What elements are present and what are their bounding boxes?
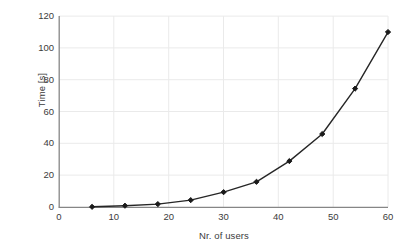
y-axis-title: Time [s] [36,50,47,130]
y-tick-label: 20 [22,170,54,180]
chart-container: 120 100 80 60 40 20 0 0 10 20 30 40 50 6… [0,0,409,250]
x-axis-title: Nr. of users [59,230,389,241]
data-point-marker [188,198,193,203]
x-tick-label: 30 [204,211,244,222]
data-series-line [92,32,388,207]
x-tick-label: 20 [149,211,189,222]
x-tick-label: 60 [368,211,408,222]
x-tick-label: 10 [94,211,134,222]
x-tick-label: 0 [39,211,79,222]
x-tick-label: 40 [258,211,298,222]
x-tick-label: 50 [313,211,353,222]
y-tick-label: 40 [22,138,54,148]
data-point-marker [155,202,160,207]
data-point-marker [89,204,94,209]
data-point-marker [221,190,226,195]
y-tick-label: 120 [22,11,54,21]
x-axis-tick-labels: 0 10 20 30 40 50 60 [0,211,409,227]
data-point-markers [89,29,390,209]
